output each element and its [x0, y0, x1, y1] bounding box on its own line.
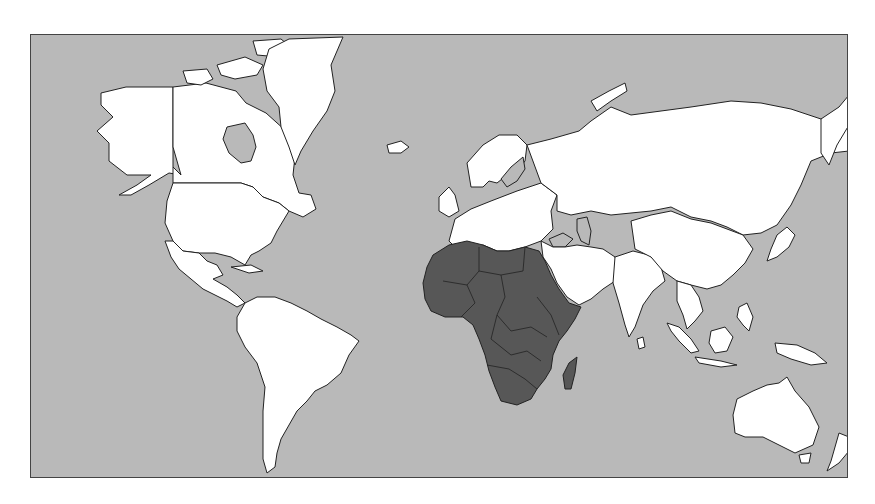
region-tasmania [799, 453, 811, 463]
region-sri-lanka [637, 337, 645, 349]
map-canvas [31, 35, 848, 478]
world-map [30, 34, 848, 478]
